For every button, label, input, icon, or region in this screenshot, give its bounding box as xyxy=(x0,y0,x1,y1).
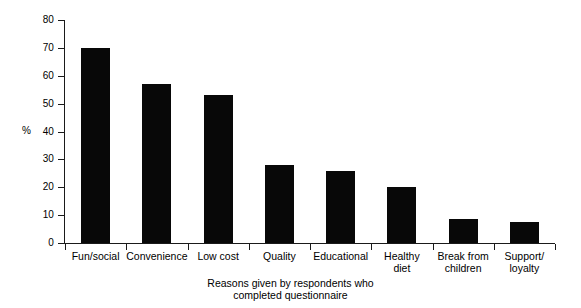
x-axis-tick-label: Healthy diet xyxy=(371,251,432,274)
x-axis-tick xyxy=(433,244,434,250)
bar-chart-figure: 01020304050607080 % Fun/socialConvenienc… xyxy=(0,0,581,308)
y-axis-tick xyxy=(58,104,65,105)
y-axis-tick xyxy=(58,215,65,216)
x-axis-tick-label: Convenience xyxy=(126,251,187,263)
x-axis-tick-label: Break from children xyxy=(433,251,494,274)
y-axis-tick-label: 20 xyxy=(28,182,54,192)
y-axis-tick xyxy=(58,20,65,21)
x-axis-tick-label: Educational xyxy=(310,251,371,263)
y-axis-tick xyxy=(58,48,65,49)
bar xyxy=(81,48,110,243)
x-axis-tick-label: Low cost xyxy=(188,251,249,263)
x-axis-tick-label: Quality xyxy=(249,251,310,263)
bar-series xyxy=(65,20,555,243)
y-axis-tick-label: 10 xyxy=(28,210,54,220)
y-axis-title: % xyxy=(22,126,31,136)
bar xyxy=(142,84,171,243)
y-axis-tick xyxy=(58,76,65,77)
bar xyxy=(387,187,416,243)
y-axis-tick xyxy=(58,187,65,188)
x-axis-tick xyxy=(555,244,556,250)
x-axis-tick xyxy=(65,244,66,250)
bar xyxy=(449,219,478,243)
y-axis-tick xyxy=(58,159,65,160)
x-axis-tick xyxy=(494,244,495,250)
y-axis-tick-label: 70 xyxy=(28,43,54,53)
x-axis-title: Reasons given by respondents who complet… xyxy=(0,277,581,301)
y-axis-tick-label: 40 xyxy=(28,127,54,137)
bar xyxy=(510,222,539,243)
x-axis-tick xyxy=(249,244,250,250)
y-axis-tick-labels: 01020304050607080 xyxy=(22,0,54,308)
y-axis-tick-label: 60 xyxy=(28,71,54,81)
y-axis-tick-label: 50 xyxy=(28,99,54,109)
bar xyxy=(326,171,355,243)
y-axis-tick xyxy=(58,243,65,244)
y-axis-tick-label: 0 xyxy=(28,238,54,248)
y-axis-tick xyxy=(58,132,65,133)
y-axis-tick-label: 80 xyxy=(28,15,54,25)
y-axis-tick-label: 30 xyxy=(28,154,54,164)
x-axis-tick-label: Support/ loyalty xyxy=(494,251,555,274)
x-axis-tick xyxy=(371,244,372,250)
x-axis-tick-label: Fun/social xyxy=(65,251,126,263)
bar xyxy=(204,95,233,243)
bar xyxy=(265,165,294,243)
x-axis-tick xyxy=(310,244,311,250)
